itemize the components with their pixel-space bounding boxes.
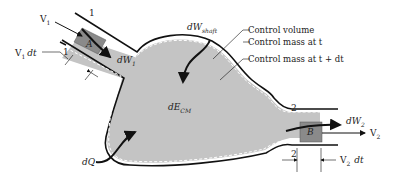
dw-shaft-label: dWshaft xyxy=(187,22,218,35)
legend-control-mass-t: Control mass at t xyxy=(248,37,323,47)
legend-control-volume: Control volume xyxy=(248,25,314,35)
dw2-label: dW2 xyxy=(346,116,365,128)
v2-label: V2 xyxy=(369,128,381,140)
v1dt-label: V1dt xyxy=(14,48,37,60)
block-b-label: B xyxy=(306,127,314,137)
control-volume-diagram: A B V1 1 1 V1dt dW1 dWshaft dECM dQ Cont… xyxy=(0,0,400,183)
section2-bottom-label: 2 xyxy=(291,149,297,159)
v1-label: V1 xyxy=(39,14,50,26)
diagram-canvas: A B V1 1 1 V1dt dW1 dWshaft dECM dQ Cont… xyxy=(0,0,400,183)
v2dt-label: V2dt xyxy=(339,155,364,167)
section1-top-label: 1 xyxy=(89,8,95,18)
section2-top-label: 2 xyxy=(291,103,297,113)
dq-label: dQ xyxy=(82,157,96,167)
legend-control-mass-t-dt: Control mass at t + dt xyxy=(248,54,344,64)
v1-arrow xyxy=(55,22,82,36)
